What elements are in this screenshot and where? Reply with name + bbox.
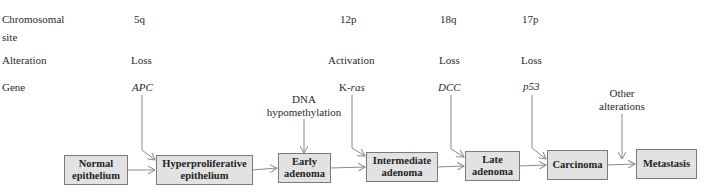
stage-metastasis: Metastasis [636, 149, 697, 179]
stage-carcinoma-label: Carcinoma [553, 159, 603, 171]
stage-normal-line1: Normal [72, 158, 120, 170]
stage-normal-line2: epithelium [72, 170, 120, 182]
stage-early-adenoma: Earlyadenoma [278, 153, 331, 183]
stage-early-line1: Early [284, 156, 325, 168]
stage-late-line2: adenoma [472, 166, 513, 178]
stage-intermediate-line2: adenoma [373, 167, 431, 179]
stage-hyper-line2: epithelium [162, 170, 246, 182]
stage-early-line2: adenoma [284, 168, 325, 180]
stage-intermediate-adenoma: Intermediateadenoma [366, 152, 438, 182]
stage-late-line1: Late [472, 154, 513, 166]
stage-hyper-line1: Hyperproliferative [162, 158, 246, 170]
stage-intermediate-line1: Intermediate [373, 155, 431, 167]
stage-late-adenoma: Lateadenoma [465, 151, 520, 181]
stage-normal-epithelium: Normalepithelium [64, 155, 128, 185]
stage-hyperproliferative-epithelium: Hyperproliferativeepithelium [156, 155, 253, 185]
stage-carcinoma: Carcinoma [547, 150, 608, 180]
stage-metastasis-label: Metastasis [643, 158, 690, 170]
